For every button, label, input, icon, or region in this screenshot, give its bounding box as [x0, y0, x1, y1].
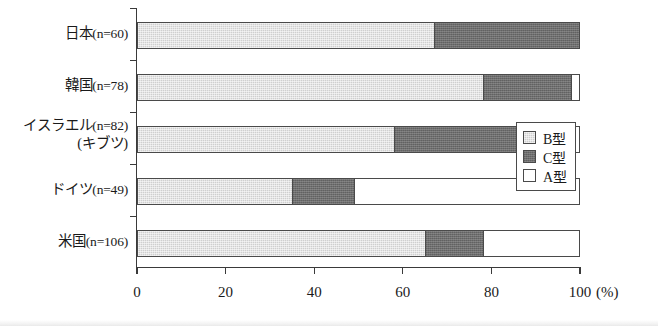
bar-4 [137, 178, 580, 205]
legend-label-C型: C型 [543, 147, 566, 167]
bar-segment-C型 [425, 230, 483, 257]
legend-swatch-B型 [523, 131, 536, 144]
x-axis-tick-label-100: 100 [569, 284, 592, 301]
country-name: イスラエル [23, 117, 92, 133]
category-label-line-1: 米国(n=106) [58, 233, 128, 251]
x-axis-tick-label-80: 80 [484, 284, 499, 301]
sample-size: (n=82) [92, 118, 128, 133]
category-label-line-1: 韓国(n=78) [65, 77, 128, 95]
x-axis-tick [136, 267, 137, 274]
bar-segment-A型 [571, 74, 580, 101]
y-axis-tick [130, 112, 137, 113]
bar-segment-C型 [483, 74, 572, 101]
x-axis-tick-label-60: 60 [395, 284, 410, 301]
legend-swatch-A型 [523, 169, 536, 182]
x-axis-tick [491, 267, 492, 274]
legend-label-A型: A型 [543, 166, 567, 186]
bar-segment-B型 [137, 230, 425, 257]
x-axis-tick [402, 267, 403, 274]
bar-segment-C型 [434, 22, 580, 49]
category-label-sub: (キブツ) [23, 135, 128, 153]
category-label-2: 韓国(n=78) [65, 77, 128, 95]
scan-edge-artifact [0, 320, 658, 326]
x-axis-unit-label: (%) [596, 284, 619, 301]
category-label-4: ドイツ(n=49) [51, 181, 128, 199]
country-name: 米国 [58, 233, 86, 249]
category-axis-labels: 日本(n=60)韓国(n=78)イスラエル(n=82)(キブツ)ドイツ(n=49… [0, 0, 132, 268]
category-label-line-1: ドイツ(n=49) [51, 181, 128, 199]
stacked-bar-chart: 日本(n=60)韓国(n=78)イスラエル(n=82)(キブツ)ドイツ(n=49… [0, 0, 658, 326]
sample-size: (n=49) [92, 182, 128, 197]
x-axis-tick-label-0: 0 [133, 284, 141, 301]
country-name: ドイツ [51, 181, 92, 197]
category-label-line-1: イスラエル(n=82) [23, 117, 128, 135]
bar-1 [137, 22, 580, 49]
legend-item-C型: C型 [523, 147, 567, 166]
bar-segment-B型 [137, 126, 394, 153]
category-label-5: 米国(n=106) [58, 233, 128, 251]
legend-item-A型: A型 [523, 166, 567, 185]
sample-size: (n=78) [92, 78, 128, 93]
legend-label-B型: B型 [543, 128, 566, 148]
category-label-3: イスラエル(n=82)(キブツ) [23, 117, 128, 152]
y-axis-tick [130, 216, 137, 217]
bar-5 [137, 230, 580, 257]
bar-3 [137, 126, 580, 153]
x-axis-tick [314, 267, 315, 274]
chart-legend: B型C型A型 [516, 122, 576, 191]
x-axis-tick [225, 267, 226, 274]
y-axis-tick [130, 164, 137, 165]
country-name: 韓国 [65, 77, 93, 93]
category-label-line-1: 日本(n=60) [65, 25, 128, 43]
legend-swatch-C型 [523, 150, 536, 163]
plot-area: 020406080100(%) [136, 8, 579, 268]
bar-segment-C型 [292, 178, 354, 205]
bar-segment-B型 [137, 178, 292, 205]
bar-segment-B型 [137, 74, 483, 101]
y-axis-tick [130, 8, 137, 9]
sample-size: (n=106) [86, 234, 128, 249]
legend-item-B型: B型 [523, 128, 567, 147]
y-axis-tick [130, 60, 137, 61]
category-label-1: 日本(n=60) [65, 25, 128, 43]
bar-segment-B型 [137, 22, 434, 49]
bar-2 [137, 74, 580, 101]
x-axis-tick-label-20: 20 [218, 284, 233, 301]
country-name: 日本 [65, 25, 93, 41]
x-axis-tick [579, 267, 580, 274]
bar-segment-A型 [483, 230, 580, 257]
sample-size: (n=60) [92, 26, 128, 41]
x-axis-tick-label-40: 40 [307, 284, 322, 301]
